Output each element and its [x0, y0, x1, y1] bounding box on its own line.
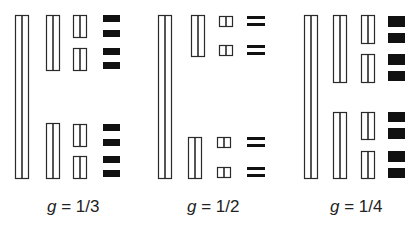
solid-rect — [103, 139, 120, 146]
solid-rect — [388, 168, 405, 178]
label-value: = 1/4 — [344, 197, 382, 216]
double-bar — [247, 45, 265, 55]
double-bar — [247, 167, 265, 177]
split-rect — [74, 125, 87, 147]
split-rect — [305, 16, 318, 179]
panel-label-g-1-3: g = 1/3 — [47, 197, 100, 217]
solid-rect — [388, 16, 405, 27]
split-rect — [334, 16, 347, 83]
split-rect — [159, 16, 172, 179]
panel-label-g-1-4: g = 1/4 — [330, 197, 383, 217]
split-rect — [47, 16, 60, 71]
split-rect — [220, 17, 233, 27]
split-rect — [362, 113, 375, 140]
split-rect — [362, 152, 375, 179]
solid-rect — [388, 112, 405, 122]
solid-rect — [388, 128, 405, 139]
label-variable: g — [187, 197, 196, 216]
split-rect — [16, 16, 29, 179]
label-variable: g — [330, 197, 339, 216]
double-bar — [247, 137, 265, 147]
split-rect — [218, 168, 231, 178]
panel-g-1-4 — [305, 16, 406, 179]
split-rect — [362, 55, 375, 83]
label-value: = 1/2 — [201, 197, 239, 216]
label-value: = 1/3 — [61, 197, 99, 216]
split-rect — [362, 16, 375, 44]
solid-rect — [103, 170, 120, 177]
solid-rect — [103, 48, 120, 55]
label-variable: g — [47, 197, 56, 216]
solid-rect — [103, 156, 120, 163]
split-rect — [189, 138, 202, 179]
solid-rect — [388, 151, 405, 162]
split-rect — [220, 46, 233, 56]
diagram-canvas — [0, 0, 419, 227]
double-bar — [247, 16, 265, 26]
solid-rect — [103, 30, 120, 37]
solid-rect — [103, 62, 120, 69]
panel-g-1-3 — [16, 15, 121, 179]
solid-rect — [103, 15, 120, 22]
panel-label-g-1-2: g = 1/2 — [187, 197, 240, 217]
split-rect — [334, 113, 347, 179]
solid-rect — [388, 54, 405, 65]
solid-rect — [388, 33, 405, 43]
split-rect — [74, 49, 87, 71]
split-rect — [47, 124, 60, 179]
panel-g-1-2 — [159, 16, 266, 179]
split-rect — [74, 16, 87, 38]
solid-rect — [388, 71, 405, 81]
split-rect — [74, 157, 87, 179]
solid-rect — [103, 124, 120, 131]
split-rect — [218, 138, 231, 148]
split-rect — [192, 16, 205, 57]
